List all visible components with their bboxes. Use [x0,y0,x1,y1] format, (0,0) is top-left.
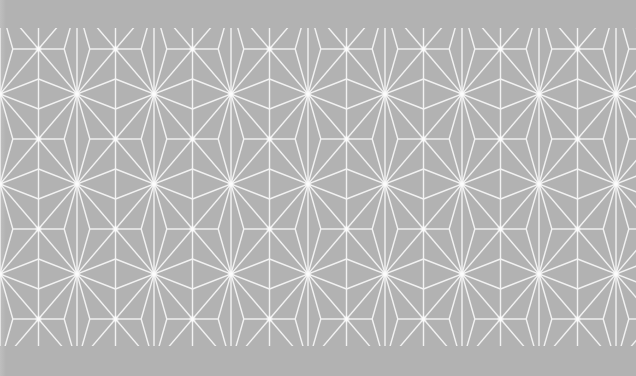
asanoha-pattern [0,28,636,346]
asanoha-pattern-band [0,28,636,346]
pattern-fill [0,28,636,346]
